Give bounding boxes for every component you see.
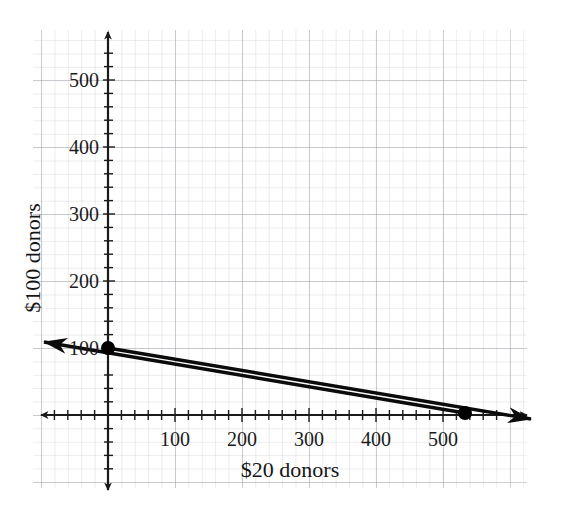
- y-axis-title: $100 donors: [20, 203, 46, 312]
- x-intercept-point: [458, 406, 472, 420]
- y-tick-label-400: 400: [69, 136, 99, 159]
- x-tick-label-300: 300: [294, 428, 324, 451]
- x-tick-label-500: 500: [428, 428, 458, 451]
- y-tick-label-500: 500: [69, 69, 99, 92]
- x-tick-label-100: 100: [160, 428, 190, 451]
- x-tick-label-400: 400: [361, 428, 391, 451]
- y-tick-label-100: 100: [69, 337, 99, 360]
- graph-figure: 100 200 300 400 500 100 200 300 400 500 …: [0, 0, 568, 507]
- y-intercept-point: [101, 341, 115, 355]
- y-tick-label-300: 300: [69, 203, 99, 226]
- x-axis-title: $20 donors: [241, 457, 339, 483]
- x-tick-label-200: 200: [227, 428, 257, 451]
- y-tick-label-200: 200: [69, 270, 99, 293]
